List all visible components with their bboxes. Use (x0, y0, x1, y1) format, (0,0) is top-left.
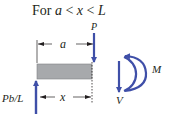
reaction-arrow-icon: Pb/L (1, 81, 36, 114)
label-reaction: Pb/L (1, 92, 23, 104)
load-p-arrow-icon: P (90, 21, 97, 62)
label-a: a (60, 37, 66, 51)
label-p: P (90, 21, 97, 32)
label-m: M (151, 63, 162, 75)
label-x: x (59, 90, 66, 104)
free-body-diagram: a x P Pb/L V M (0, 0, 174, 119)
shear-v-arrow-icon: V (116, 61, 124, 106)
dimension-a: a (37, 37, 93, 63)
moment-arc-icon: M (124, 56, 162, 91)
dimension-x: x (40, 90, 91, 104)
label-v: V (116, 94, 124, 106)
beam-segment (37, 64, 92, 79)
